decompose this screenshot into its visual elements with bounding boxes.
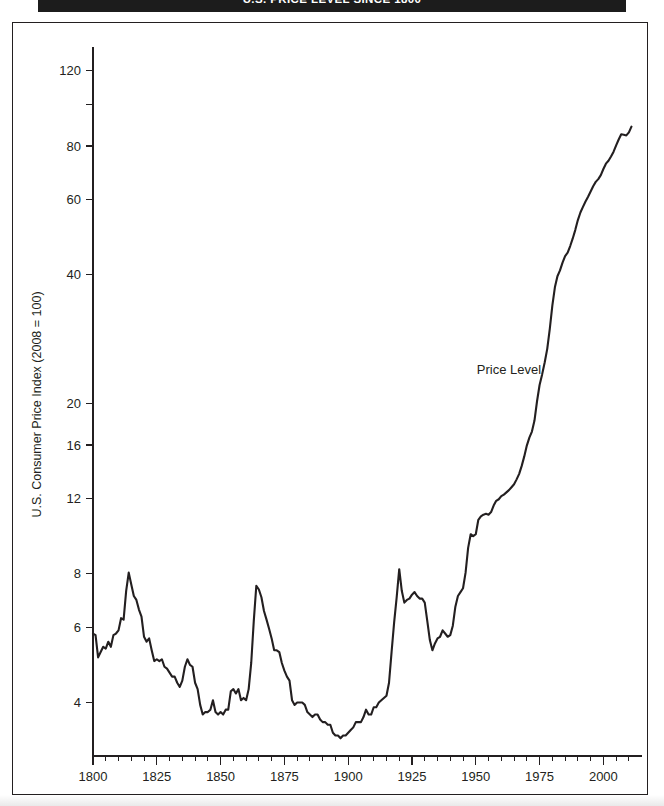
price-level-series <box>93 127 631 739</box>
x-tick-label: 1900 <box>334 769 363 784</box>
y-tick-label: 60 <box>67 192 81 207</box>
y-tick-label: 80 <box>67 139 81 154</box>
y-tick-label: 4 <box>74 695 81 710</box>
price-level-chart: 468121620406080120 180018251850187519001… <box>13 23 649 796</box>
price-level-annotation: Price Level <box>477 362 541 377</box>
y-tick-label: 40 <box>67 267 81 282</box>
x-tick-label: 1850 <box>206 769 235 784</box>
chart-title-banner: U.S. PRICE LEVEL SINCE 1800 <box>38 0 626 12</box>
y-tick-label: 20 <box>67 396 81 411</box>
x-tick-label: 1875 <box>270 769 299 784</box>
y-axis-label: U.S. Consumer Price Index (2008 = 100) <box>30 291 44 517</box>
x-tick-label: 1800 <box>79 769 108 784</box>
y-tick-label: 16 <box>67 438 81 453</box>
x-tick-label: 1825 <box>142 769 171 784</box>
x-axis: 180018251850187519001925195019752000 <box>79 756 642 784</box>
y-tick-label: 12 <box>67 491 81 506</box>
x-tick-label: 1975 <box>525 769 554 784</box>
y-tick-label: 8 <box>74 566 81 581</box>
y-tick-label: 120 <box>59 63 81 78</box>
scan-shadow <box>0 795 664 806</box>
x-tick-label: 2000 <box>589 769 618 784</box>
y-axis: 468121620406080120 <box>59 47 93 756</box>
x-tick-label: 1950 <box>461 769 490 784</box>
figure-frame: 468121620406080120 180018251850187519001… <box>12 22 648 795</box>
y-tick-label: 6 <box>74 620 81 635</box>
x-tick-label: 1925 <box>398 769 427 784</box>
